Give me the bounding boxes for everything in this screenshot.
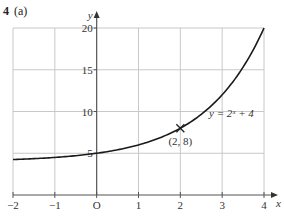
x-tick-label: 4 <box>261 199 267 211</box>
x-axis-label: x <box>275 197 281 209</box>
y-axis-label: y <box>87 9 93 21</box>
x-tick-label: 1 <box>136 199 142 211</box>
y-tick-label: 10 <box>82 106 94 118</box>
point-label: (2, 8) <box>168 135 192 148</box>
x-tick-label: −2 <box>7 199 19 211</box>
question-part: (a) <box>14 4 27 18</box>
y-axis-arrow-icon <box>94 11 100 18</box>
question-number: 4 <box>3 4 9 18</box>
chart-figure: 4(a) xy−2−1O12345101520y = 2ˣ + 4(2, 8) <box>0 0 284 217</box>
plot-area: xy−2−1O12345101520y = 2ˣ + 4(2, 8) <box>0 0 284 217</box>
x-tick-label: O <box>93 199 101 211</box>
question-label: 4(a) <box>3 4 27 19</box>
x-tick-label: 2 <box>178 199 184 211</box>
y-tick-label: 20 <box>82 22 94 34</box>
curve-equation-label: y = 2ˣ + 4 <box>208 107 254 119</box>
x-tick-label: 3 <box>219 199 225 211</box>
y-tick-label: 15 <box>82 64 94 76</box>
x-tick-label: −1 <box>49 199 61 211</box>
